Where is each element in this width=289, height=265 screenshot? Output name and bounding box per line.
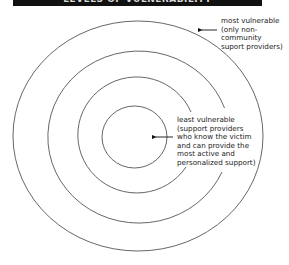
label-line: personalized support) (177, 159, 255, 168)
most-vulnerable-label: most vulnerable (only non- community sup… (221, 17, 283, 51)
label-line: suport providers) (221, 43, 283, 52)
least-vulnerable-label: least vulnerable (support providers who … (177, 116, 255, 168)
ring-third (78, 77, 191, 193)
